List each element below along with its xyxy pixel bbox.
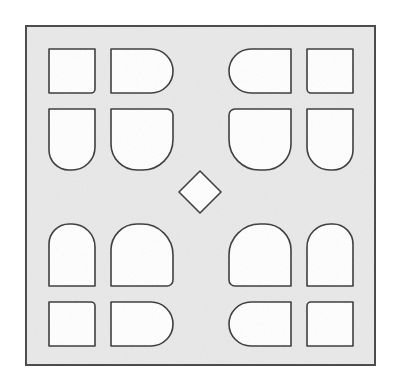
hole-r1c4 <box>307 49 353 93</box>
hole-r4c3 <box>229 302 291 346</box>
hole-r1c2 <box>111 49 173 93</box>
perforated-block-diagram <box>0 0 399 389</box>
figure-root: Symmetric perforated square block A gray… <box>0 0 399 389</box>
hole-r3c2 <box>111 224 173 286</box>
hole-r4c2 <box>111 302 173 346</box>
hole-r2c3 <box>229 109 291 170</box>
hole-r4c1 <box>49 302 95 346</box>
hole-r3c4 <box>307 224 353 286</box>
hole-r2c4 <box>307 109 353 170</box>
hole-r3c1 <box>49 224 95 286</box>
hole-r1c3 <box>229 49 291 93</box>
hole-r3c3 <box>229 224 291 286</box>
hole-r2c2 <box>111 109 173 170</box>
hole-r2c1 <box>49 109 95 170</box>
hole-r4c4 <box>307 302 353 346</box>
hole-r1c1 <box>49 49 95 93</box>
